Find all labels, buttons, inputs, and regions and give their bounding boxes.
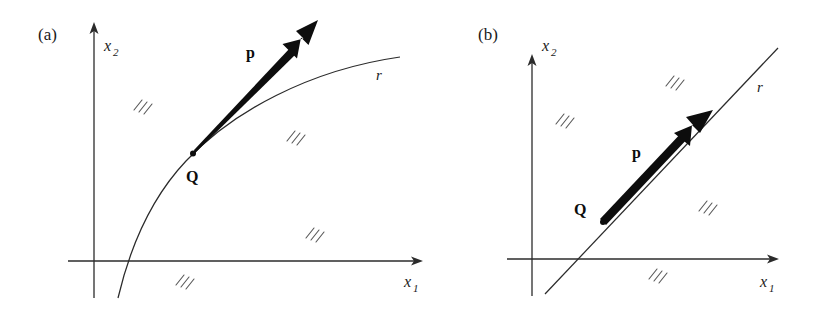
panel-b-vector-p-label: p	[632, 144, 641, 162]
panel-b-point-q-label: Q	[574, 201, 586, 218]
panel-a-curve-label-r: r	[376, 67, 382, 83]
panel-b-vector-p	[600, 110, 713, 225]
panel-b-label: (b)	[478, 25, 498, 44]
panel-b-hatch-4	[649, 269, 667, 283]
panel-a-hatch-1	[134, 100, 152, 114]
panel-a-hatch-2	[287, 131, 305, 145]
panel-a-hatch-3	[306, 228, 324, 242]
panel-b-x-axis-label: x	[759, 273, 767, 290]
panel-a-vector-p	[190, 20, 318, 157]
panel-a-point-q-dot	[190, 151, 196, 157]
panel-b-x-axis-label-subscript: 1	[769, 282, 775, 294]
panel-a-y-axis-label: x	[103, 37, 111, 54]
panel-b-line-r	[545, 48, 778, 294]
panel-a: (a) x 2 x 1 r p Q	[38, 20, 423, 298]
panel-a-vector-p-label: p	[246, 44, 255, 62]
panel-b-curve-label-r: r	[757, 79, 763, 95]
panel-a-point-q-label: Q	[186, 168, 198, 185]
panel-a-vector-p-shaft	[192, 48, 297, 157]
panel-b-y-axis-label: x	[541, 37, 549, 54]
panel-a-label: (a)	[38, 25, 57, 44]
panel-a-x-axis-label: x	[403, 273, 411, 290]
panel-b-hatch-3	[699, 201, 717, 215]
panel-a-curve-r	[118, 57, 400, 298]
panel-b-hatch-2	[556, 114, 574, 128]
panel-b-vector-p-shaft	[600, 130, 690, 225]
panel-a-hatch-4	[176, 275, 194, 289]
panel-a-x-axis-label-subscript: 1	[413, 282, 419, 294]
vector-diagram-svg: (a) x 2 x 1 r p Q	[0, 0, 815, 309]
panel-a-y-axis-label-subscript: 2	[113, 46, 119, 58]
panel-b-y-axis-label-subscript: 2	[551, 46, 557, 58]
panel-b-point-q-dot	[600, 219, 606, 225]
figure-canvas: (a) x 2 x 1 r p Q	[0, 0, 815, 309]
panel-b: (b) x 2 x 1 r p Q	[478, 25, 779, 296]
panel-b-hatch-1	[666, 76, 684, 90]
